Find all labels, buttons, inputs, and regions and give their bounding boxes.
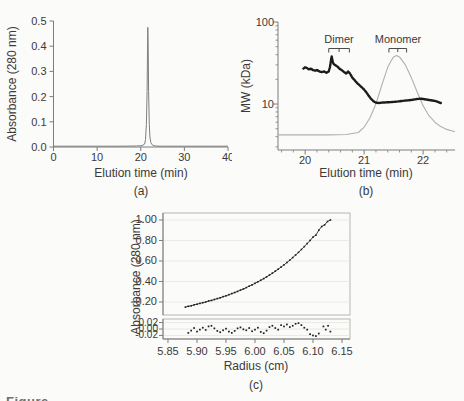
residual-point	[330, 331, 332, 333]
residual-point	[257, 327, 259, 329]
annotation-dimer-label: Dimer	[324, 33, 354, 45]
data-point	[303, 246, 305, 248]
residual-point	[289, 326, 291, 328]
data-point	[283, 264, 285, 266]
data-point	[321, 226, 323, 228]
residual-point	[219, 331, 221, 333]
residual-point	[312, 335, 314, 337]
x-tick-label: 0	[50, 151, 56, 163]
residual-point	[234, 330, 236, 332]
residual-point	[254, 329, 256, 331]
data-point	[277, 268, 279, 270]
data-point	[237, 291, 239, 293]
x-tick-label: 6.10	[302, 345, 323, 357]
panel-b: 20212210100 Dimer Monomer Elution time (…	[232, 0, 464, 200]
data-point	[234, 292, 236, 294]
data-point	[312, 236, 314, 238]
data-point	[274, 270, 276, 272]
residual-point	[199, 329, 201, 331]
data-point	[245, 287, 247, 289]
data-point	[257, 281, 259, 283]
residual-point	[243, 328, 245, 330]
annotation-bracket	[329, 49, 350, 53]
data-point	[190, 305, 192, 307]
main-plot-frame	[163, 213, 350, 315]
data-point	[214, 299, 216, 301]
data-point	[196, 303, 198, 305]
panel-letter-c: (c)	[249, 378, 263, 392]
data-point	[251, 284, 253, 286]
residual-point	[231, 332, 233, 334]
y-axis-label-c: Absorbance (280 nm)	[129, 219, 143, 334]
x-tick-label: 6.00	[244, 345, 265, 357]
uv-absorbance-trace	[54, 27, 229, 146]
residual-point	[245, 329, 247, 331]
residual-point	[280, 324, 282, 326]
data-point	[202, 302, 204, 304]
residual-point	[292, 325, 294, 327]
residual-point	[325, 329, 327, 331]
x-tick-label: 6.05	[273, 345, 294, 357]
x-tick-label: 40	[222, 151, 232, 163]
x-tick-label: 5.95	[215, 345, 236, 357]
data-point	[324, 224, 326, 226]
data-point	[205, 301, 207, 303]
residual-point	[283, 326, 285, 328]
data-point	[225, 295, 227, 297]
residual-point	[277, 329, 279, 331]
chart-c-plot: 0.200.400.600.801.000.020.00-0.025.855.9…	[135, 213, 353, 357]
residual-point	[269, 326, 271, 328]
residual-point	[202, 327, 204, 329]
residual-point	[295, 323, 297, 325]
y-axis-label-a: Absorbance (280 nm)	[5, 26, 19, 141]
y-axis-label-b: MW (kDa)	[239, 59, 253, 113]
data-point	[222, 296, 224, 298]
y-tick-label: 10	[262, 98, 274, 110]
axis-lines	[54, 21, 229, 147]
x-axis-label-c: Radius (cm)	[224, 359, 289, 373]
mw-estimate-trace	[303, 57, 440, 104]
x-tick-label: 10	[91, 151, 103, 163]
x-tick-label: 5.90	[186, 345, 207, 357]
residual-point	[248, 327, 250, 329]
data-point	[289, 259, 291, 261]
x-tick-label: 5.85	[157, 345, 178, 357]
data-point	[327, 221, 329, 223]
x-axis-label-b: Elution time (min)	[319, 166, 412, 180]
data-point	[272, 272, 274, 274]
residual-point	[187, 332, 189, 334]
residual-point	[240, 327, 242, 329]
residual-point	[323, 326, 325, 328]
data-point	[292, 257, 294, 259]
x-tick-label: 6.15	[331, 345, 352, 357]
residual-point	[196, 331, 198, 333]
x-tick-label: 21	[358, 154, 370, 166]
panel-a: 0102030400.00.10.20.30.40.5 Elution time…	[0, 0, 232, 200]
chart-c: 0.200.400.600.801.000.020.00-0.025.855.9…	[120, 200, 370, 401]
residual-point	[301, 324, 303, 326]
data-point	[269, 274, 271, 276]
y-tick-label: 0.3	[31, 65, 46, 77]
data-point	[248, 285, 250, 287]
data-point	[228, 294, 230, 296]
panel-c: 0.200.400.600.801.000.020.00-0.025.855.9…	[120, 200, 370, 401]
y-tick-label: 0.0	[31, 141, 46, 153]
data-point	[263, 278, 265, 280]
data-point	[309, 240, 311, 242]
residual-point	[260, 331, 262, 333]
data-point	[185, 306, 187, 308]
data-point	[280, 266, 282, 268]
chart-b: 20212210100 Dimer Monomer Elution time (…	[232, 0, 464, 200]
data-point	[254, 283, 256, 285]
y-tick-label: 0.4	[31, 40, 46, 52]
data-point	[315, 234, 317, 236]
data-point	[260, 279, 262, 281]
residual-point	[263, 332, 265, 334]
residual-point	[208, 326, 210, 328]
annotation-monomer-label: Monomer	[375, 33, 422, 45]
residual-point	[216, 330, 218, 332]
annotation-bracket	[389, 49, 407, 53]
x-axis-label-a: Elution time (min)	[94, 166, 187, 180]
data-point	[211, 300, 213, 302]
data-point	[199, 303, 201, 305]
